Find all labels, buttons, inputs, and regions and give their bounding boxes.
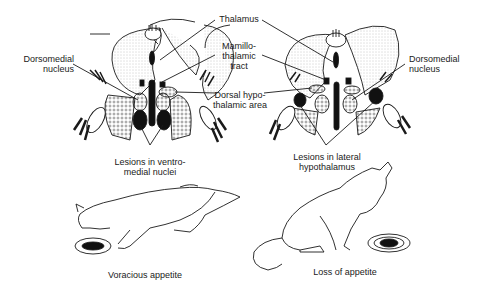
cat-eating-illustration (75, 185, 240, 254)
brain-section-right (270, 26, 410, 140)
label-dorsal-hypothalamic-area: Dorsal hypo- thalamic area (208, 90, 272, 110)
label-thalamus: Thalamus (212, 14, 266, 24)
cat-sitting-illustration (253, 162, 410, 270)
caption-loss-of-appetite: Loss of appetite (300, 267, 390, 277)
caption-voracious-appetite: Voracious appetite (95, 270, 195, 280)
label-mamillothalamic-tract: Mamillo- thalamic tract (212, 41, 266, 71)
label-dorsomedial-nucleus-right: Dorsomedial nucleus (409, 54, 473, 74)
label-dorsomedial-nucleus-left: Dorsomedial nucleus (10, 54, 74, 74)
label-lesions-ventromedial: Lesions in ventro- medial nuclei (105, 157, 195, 177)
brain-section-left (74, 19, 233, 142)
label-lesions-lateral: Lesions in lateral hypothalamus (282, 152, 372, 172)
